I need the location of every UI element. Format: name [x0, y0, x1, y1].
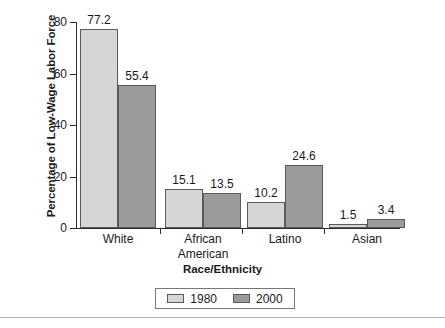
- x-category-label-latino: Latino: [247, 232, 323, 247]
- legend-label-2000: 2000: [256, 292, 283, 306]
- y-tick-label: 60: [54, 67, 67, 81]
- x-category-line: White: [80, 232, 156, 247]
- x-axis-line: [76, 228, 400, 229]
- bar-value-label: 3.4: [378, 203, 395, 217]
- x-category-line: African: [165, 232, 241, 247]
- bar-african-american-1980[interactable]: 15.1: [165, 189, 203, 228]
- bar-asian-2000[interactable]: 3.4: [367, 219, 405, 228]
- legend-swatch-icon-2000: [233, 294, 250, 303]
- y-tick-mark: [70, 228, 76, 229]
- bar-value-label: 1.5: [340, 208, 357, 222]
- bar-latino-2000[interactable]: 24.6: [285, 165, 323, 228]
- y-tick-label: 40: [54, 118, 67, 132]
- y-tick-mark: [70, 125, 76, 126]
- x-separator-tick: [242, 228, 243, 234]
- bar-african-american-2000[interactable]: 13.5: [203, 193, 241, 228]
- legend-item-2000[interactable]: 2000: [233, 292, 283, 306]
- y-axis-title: Percentage of Low-Wage Labor Force: [36, 0, 66, 232]
- bar-value-label: 10.2: [254, 186, 277, 200]
- x-category-line: American: [165, 247, 241, 262]
- x-category-label-asian: Asian: [329, 232, 405, 247]
- y-tick-label: 20: [54, 170, 67, 184]
- bar-asian-1980[interactable]: 1.5: [329, 224, 367, 228]
- bar-value-label: 13.5: [210, 177, 233, 191]
- y-tick-mark: [70, 177, 76, 178]
- bar-value-label: 24.6: [292, 149, 315, 163]
- x-category-line: Latino: [247, 232, 323, 247]
- bar-white-2000[interactable]: 55.4: [118, 85, 156, 228]
- bar-latino-1980[interactable]: 10.2: [247, 202, 285, 228]
- y-axis-line: [76, 22, 77, 228]
- x-separator-tick: [160, 228, 161, 234]
- x-category-label-white: White: [80, 232, 156, 247]
- bar-value-label: 55.4: [125, 69, 148, 83]
- bottom-divider: [0, 317, 445, 318]
- chart-legend: 1980 2000: [155, 288, 295, 309]
- y-tick-mark: [70, 74, 76, 75]
- legend-item-1980[interactable]: 1980: [167, 292, 217, 306]
- bar-value-label: 77.2: [87, 13, 110, 27]
- bar-value-label: 15.1: [172, 173, 195, 187]
- bar-group-african-american: 15.1 13.5 African American: [165, 22, 243, 228]
- bar-white-1980[interactable]: 77.2: [80, 29, 118, 228]
- y-tick-label: 80: [54, 15, 67, 29]
- legend-label-1980: 1980: [190, 292, 217, 306]
- x-separator-tick: [324, 228, 325, 234]
- bar-group-latino: 10.2 24.6 Latino: [247, 22, 325, 228]
- x-category-label-african-american: African American: [165, 232, 241, 262]
- bar-chart-figure: Percentage of Low-Wage Labor Force 0 20 …: [0, 0, 445, 328]
- bar-group-white: 77.2 55.4 White: [80, 22, 158, 228]
- y-tick-label: 0: [60, 221, 67, 235]
- bar-group-asian: 1.5 3.4 Asian: [329, 22, 407, 228]
- y-tick-mark: [70, 22, 76, 23]
- x-category-line: Asian: [329, 232, 405, 247]
- plot-area: 0 20 40 60 80 77.2 55.4: [76, 22, 400, 228]
- legend-swatch-icon-1980: [167, 294, 184, 303]
- x-axis-title: Race/Ethnicity: [0, 263, 445, 275]
